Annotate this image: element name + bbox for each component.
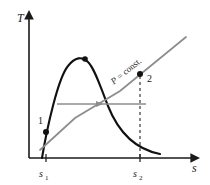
svg-text:P = const.: P = const. [108, 56, 143, 87]
tick-label-s2-sub: 2 [139, 174, 143, 182]
ts-diagram-figure: T s s 1 s 2 1 2 P = const. [0, 0, 210, 185]
state-2-marker [137, 71, 143, 77]
tick-label-s2-main: s [133, 168, 137, 179]
p-const-label-rest: = const. [113, 56, 143, 83]
state-2-label: 2 [147, 73, 152, 84]
tick-label-s1-main: s [39, 168, 43, 179]
ts-diagram-canvas: T s s 1 s 2 1 2 P = const. [0, 0, 210, 185]
x-axis-label: s [192, 161, 197, 175]
p-const-label-group: P = const. [108, 56, 143, 87]
tick-label-s1-sub: 1 [45, 174, 49, 182]
pressure-const-group [40, 37, 186, 150]
critical-point-marker [82, 56, 88, 62]
p-const-line [40, 37, 186, 150]
text-labels-group: T s s 1 s 2 1 2 P = const. [17, 11, 197, 182]
y-axis-label: T [17, 11, 25, 25]
state-1-marker [43, 129, 49, 135]
state-1-label: 1 [38, 115, 43, 126]
